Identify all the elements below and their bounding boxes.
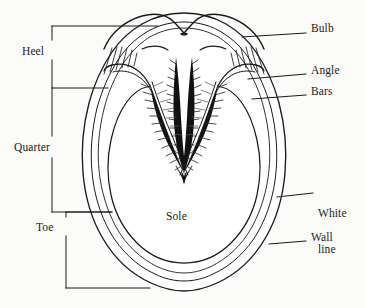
wall-outer-outline [82,13,286,291]
hoof-sole-diagram [0,0,366,308]
label-heel: Heel [22,45,44,58]
label-wall: Wall [311,231,333,244]
label-white-line-line1: White [318,207,347,219]
label-quarter: Quarter [14,141,50,154]
label-sole: Sole [166,210,187,223]
label-white-line-line2: line [318,243,347,255]
leader-wall [269,241,306,244]
figure-page: Bulb Angle Bars White line Wall Heel Qua… [0,0,366,308]
label-bars: Bars [311,85,332,98]
label-toe: Toe [36,221,53,234]
hoof-outline-group [82,13,286,291]
label-bulb: Bulb [311,22,334,35]
label-angle: Angle [311,64,340,77]
leader-bulb [242,33,306,37]
